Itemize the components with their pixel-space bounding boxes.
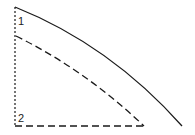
label-1: 1 (18, 15, 24, 27)
curve-2-dashed (16, 36, 144, 126)
curve-1-solid (15, 7, 182, 126)
label-2: 2 (18, 112, 24, 124)
diagram-canvas: 1 2 (0, 0, 195, 135)
